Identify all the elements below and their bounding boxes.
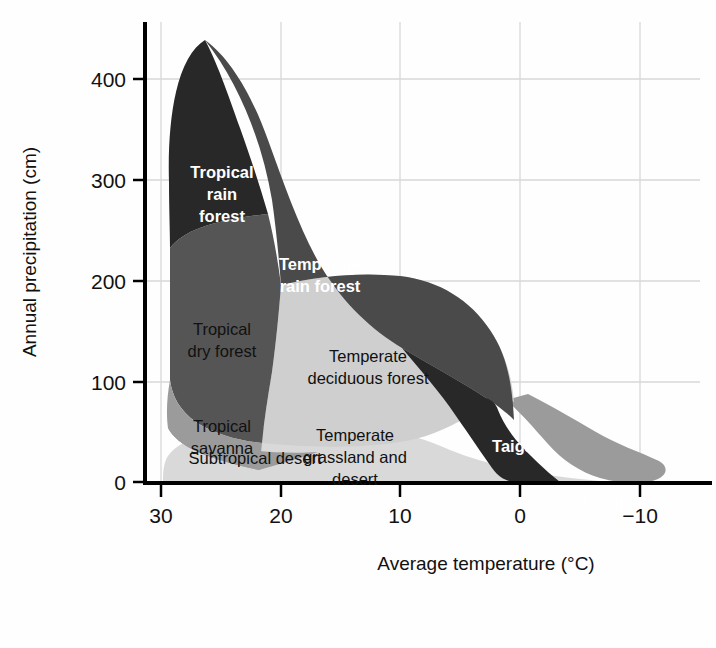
x-tick-label-10: 10 (388, 504, 411, 527)
label-temperate-grassland-line3: desert (332, 470, 378, 488)
y-axis-title: Annual precipitation (cm) (19, 147, 40, 357)
label-taiga: Taiga (492, 437, 535, 455)
chart-svg: 400 300 200 100 0 30 20 10 0 −10 Average… (0, 0, 716, 648)
x-tick-label-20: 20 (269, 504, 292, 527)
y-tick-label-400: 400 (91, 68, 126, 91)
label-tropical-rain-forest-line2: rain (207, 185, 237, 203)
y-tick-label-100: 100 (91, 371, 126, 394)
x-tick-label-0: 0 (514, 504, 526, 527)
label-tropical-dry-forest-line2: dry forest (188, 342, 257, 360)
y-tick-label-300: 300 (91, 169, 126, 192)
label-subtropical-desert: Subtropical desert (189, 449, 322, 467)
x-tick-label-30: 30 (149, 504, 172, 527)
label-temperate-deciduous-forest-line1: Temperate (329, 347, 407, 365)
y-tick-label-0: 0 (114, 471, 126, 494)
label-tropical-savanna-line1: Tropical (193, 417, 251, 435)
x-axis-title: Average temperature (°C) (377, 553, 594, 574)
label-tropical-rain-forest-line1: Tropical (190, 163, 253, 181)
label-temperate-grassland-line1: Temperate (316, 426, 394, 444)
label-temperate-rain-forest-line1: Temperate (279, 255, 361, 273)
label-tropical-dry-forest-line1: Tropical (193, 320, 251, 338)
y-tick-label-200: 200 (91, 270, 126, 293)
label-tropical-rain-forest-line3: forest (199, 207, 245, 225)
label-temperate-rain-forest-line2: rain forest (280, 277, 361, 295)
label-tundra: Tundra (580, 494, 636, 512)
label-temperate-deciduous-forest-line2: deciduous forest (307, 369, 428, 387)
whittaker-biome-chart: 400 300 200 100 0 30 20 10 0 −10 Average… (0, 0, 716, 648)
